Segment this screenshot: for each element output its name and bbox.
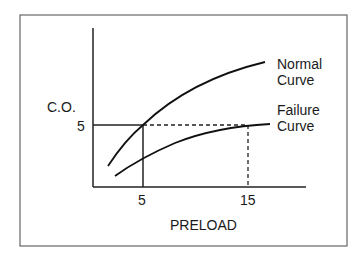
x-tick-15: 15 (240, 193, 256, 208)
normal-curve-label-line1: Normal (277, 57, 322, 72)
x-tick-5: 5 (138, 193, 146, 208)
failure-curve-label-line1: Failure (277, 103, 320, 118)
y-tick-5: 5 (77, 119, 85, 134)
failure-curve-label-line2: Curve (277, 119, 314, 134)
x-axis-label: PRELOAD (170, 218, 237, 233)
y-axis-label: C.O. (47, 100, 76, 115)
normal-curve (108, 62, 265, 166)
normal-curve-label-line2: Curve (277, 73, 314, 88)
failure-curve (115, 124, 270, 176)
